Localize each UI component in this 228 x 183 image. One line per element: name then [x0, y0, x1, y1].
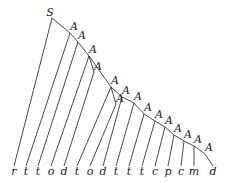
node-a: A [173, 122, 182, 135]
tree-node-labels: SAAAAAAAAAAAAAAA [46, 6, 213, 154]
node-a: A [183, 128, 192, 141]
node-a: A [204, 141, 213, 154]
node-a: A [88, 43, 97, 56]
node-a: A [133, 90, 142, 103]
leaf-edge [181, 141, 184, 166]
leaf-label: d [99, 165, 106, 178]
node-a: A [154, 108, 163, 121]
spine-edge [165, 127, 174, 135]
leaf-label: t [127, 165, 132, 178]
leaf-label: d [60, 165, 67, 178]
spine-edge [144, 114, 155, 121]
spine-edge [184, 141, 194, 146]
spine-edge [52, 18, 70, 33]
leaf-label: c [152, 165, 158, 178]
spine-edge [174, 135, 184, 141]
leaf-edge [26, 33, 70, 166]
node-a: A [193, 133, 202, 146]
spine-edge [134, 103, 144, 114]
node-a: A [110, 74, 119, 87]
leaf-edge [129, 114, 144, 166]
leaf-label: d [209, 165, 216, 178]
leaf-edge [155, 127, 165, 166]
branch-node-a: A [93, 60, 102, 73]
node-a: A [77, 29, 86, 42]
leaf-label: m [189, 165, 199, 178]
leaf-label: o [87, 165, 94, 178]
leaf-label: t [24, 165, 29, 178]
parse-tree-diagram: SAAAAAAAAAAAAAAA rttodtodtttcpcmd [0, 0, 228, 183]
leaf-label: t [75, 165, 80, 178]
node-a: A [69, 20, 78, 33]
tree-edges [14, 18, 213, 166]
tree-leaf-labels: rttodtodtttcpcmd [11, 165, 216, 178]
leaf-label: r [11, 165, 17, 178]
leaf-edge [168, 135, 174, 166]
spine-edge [194, 146, 205, 154]
node-a: A [143, 101, 152, 114]
leaf-label: t [114, 165, 119, 178]
branch-node-a: A [115, 92, 124, 105]
leaf-label: t [140, 165, 145, 178]
leaf-edge [90, 104, 116, 166]
leaf-label: o [48, 165, 55, 178]
root-node-s: S [46, 6, 54, 19]
spine-edge [78, 42, 89, 56]
node-a: A [164, 114, 173, 127]
spine-edge [70, 33, 78, 42]
spine-edge [155, 121, 165, 127]
leaf-edge [142, 121, 155, 166]
leaf-label: p [164, 165, 171, 178]
leaf-label: c [178, 165, 184, 178]
leaf-label: t [36, 165, 41, 178]
